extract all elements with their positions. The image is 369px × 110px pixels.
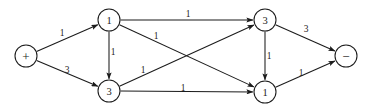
node-label-n1: 1 xyxy=(106,15,111,26)
flow-network-diagram: +1331− 1311111131 xyxy=(0,0,369,110)
edge-label-source-to-n2: 3 xyxy=(65,65,70,75)
edge-source-to-n1 xyxy=(37,25,98,52)
edges-layer xyxy=(37,20,335,92)
node-source[interactable]: + xyxy=(15,45,37,67)
node-label-n2: 3 xyxy=(106,86,111,97)
edge-label-n1-to-n4: 1 xyxy=(154,31,159,41)
graph-canvas: +1331− 1311111131 xyxy=(0,0,369,110)
node-n2[interactable]: 3 xyxy=(98,80,120,102)
edge-label-n1-to-n3: 1 xyxy=(186,9,191,19)
node-label-n4: 1 xyxy=(262,87,267,98)
node-label-sink: − xyxy=(342,49,349,64)
edge-label-source-to-n1: 1 xyxy=(60,28,65,38)
node-label-n3: 3 xyxy=(262,15,267,26)
edge-label-n2-to-n3: 1 xyxy=(141,65,146,75)
node-n1[interactable]: 1 xyxy=(98,9,120,31)
edge-label-n3-to-sink: 3 xyxy=(304,24,309,34)
node-n3[interactable]: 3 xyxy=(254,9,276,31)
edge-n2-to-n4 xyxy=(120,91,252,92)
node-n4[interactable]: 1 xyxy=(254,81,276,103)
edge-label-n1-to-n2: 1 xyxy=(111,47,116,57)
edge-n4-to-sink xyxy=(276,61,335,87)
edge-label-n2-to-n4: 1 xyxy=(181,83,186,93)
node-sink[interactable]: − xyxy=(335,45,357,67)
edge-label-n3-to-n4: 1 xyxy=(267,51,272,61)
node-label-source: + xyxy=(22,49,29,64)
edge-label-n4-to-sink: 1 xyxy=(299,68,304,78)
